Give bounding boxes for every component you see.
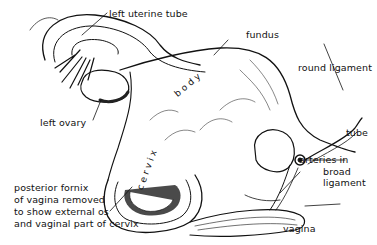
label-posterior-fornix-line2: of vagina removed [14, 194, 105, 205]
label-left-uterine-tube: left uterine tube [109, 8, 188, 19]
label-posterior-fornix-line1: posterior fornix [14, 182, 88, 193]
label-fundus: fundus [246, 29, 279, 40]
label-round-ligament: round ligament [298, 62, 372, 73]
label-left-ovary: left ovary [40, 117, 86, 128]
label-posterior-fornix-line3: to show external os [14, 206, 109, 217]
label-vagina: vagina [283, 223, 316, 234]
uterus-diagram: b o d y c e r v i x left uterine tube fu… [0, 0, 377, 245]
label-arteries-line3: ligament [323, 177, 366, 188]
label-tube: tube [346, 127, 368, 138]
label-posterior-fornix-line4: and vaginal part of cervix [14, 218, 139, 229]
label-arteries-line1: arteries in [299, 154, 348, 165]
label-arteries-line2: broad [323, 166, 351, 177]
